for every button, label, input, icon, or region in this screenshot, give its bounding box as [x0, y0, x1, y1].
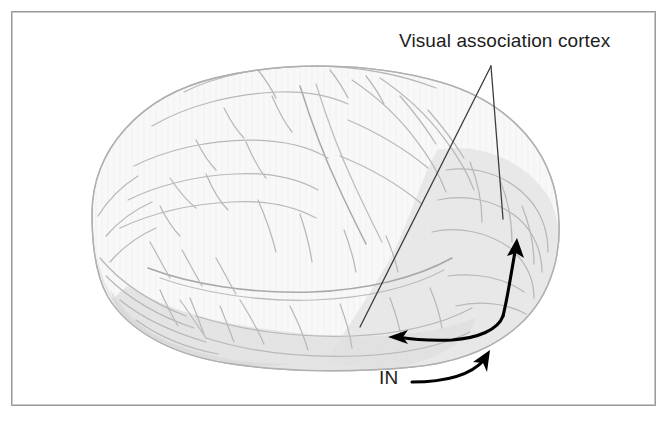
- visual-association-cortex-label: Visual association cortex: [399, 30, 610, 52]
- brain-illustration: [0, 0, 670, 424]
- brain-figure: [92, 50, 559, 400]
- figure-page: Visual association cortex IN: [0, 0, 670, 424]
- in-label: IN: [379, 367, 398, 389]
